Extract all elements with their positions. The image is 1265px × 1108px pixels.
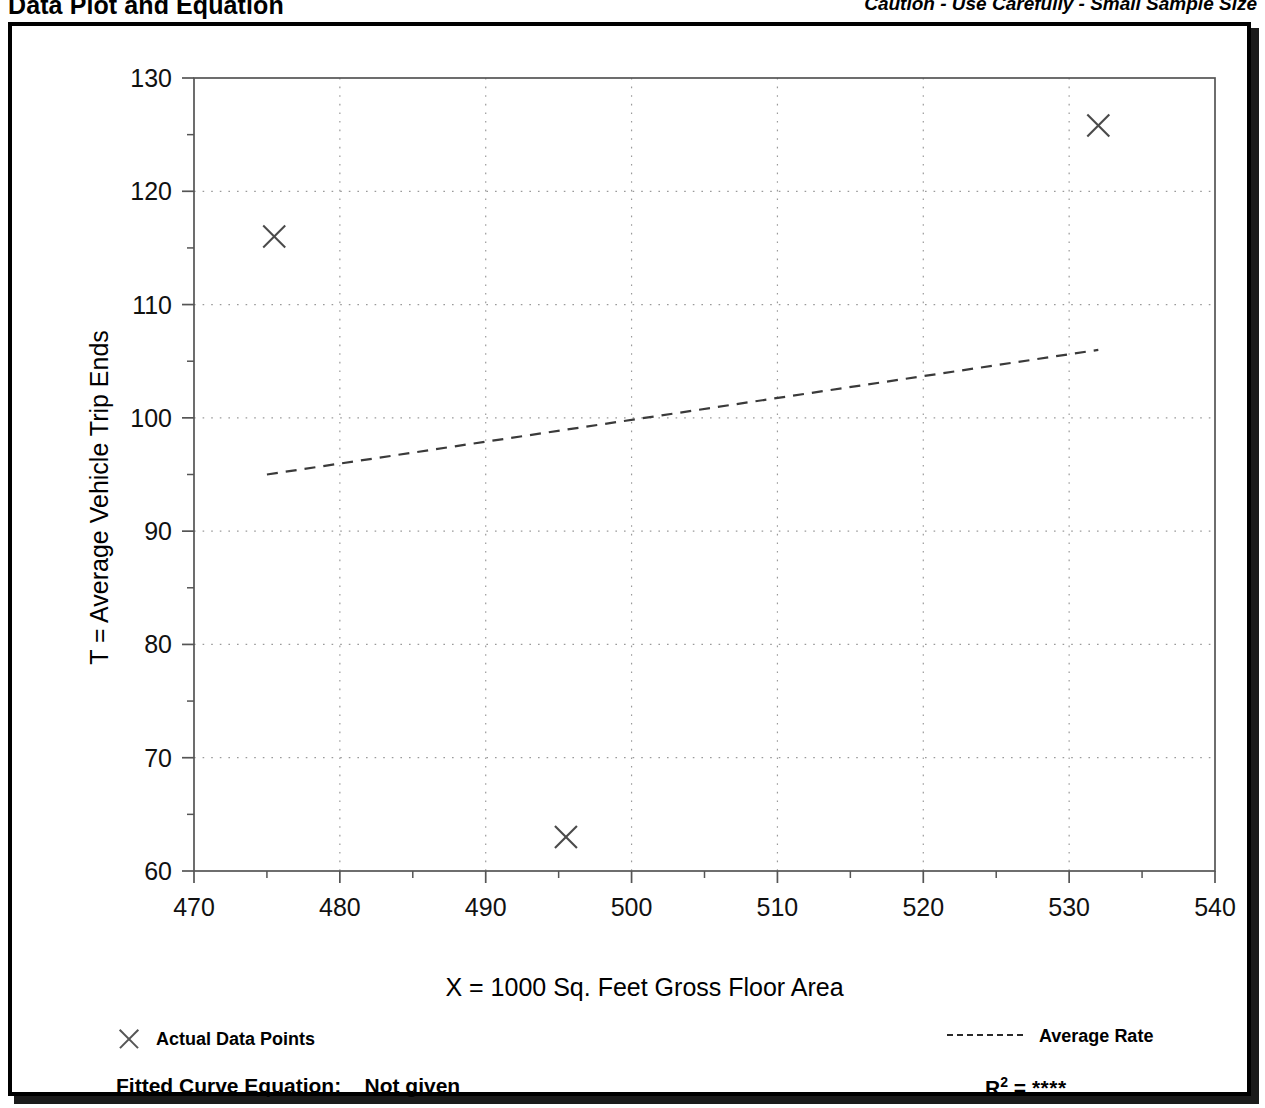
y-axis-tick-label: 110 (132, 291, 172, 319)
fitted-curve-equation-value: Not given (365, 1074, 461, 1097)
r-squared-value: **** (1032, 1076, 1067, 1099)
data-point-marker (263, 226, 285, 248)
x-axis-title: X = 1000 Sq. Feet Gross Floor Area (12, 973, 1265, 1002)
x-marker-icon (116, 1026, 142, 1052)
dashed-line-icon (947, 1034, 1023, 1039)
legend-label-actual-data-points: Actual Data Points (156, 1029, 315, 1050)
trend-line-average-rate (267, 350, 1098, 475)
y-axis-tick-label: 100 (130, 404, 172, 432)
x-axis-tick-label: 500 (611, 893, 653, 921)
y-axis-tick-label: 70 (144, 744, 172, 772)
r-squared-equals: = (1014, 1076, 1026, 1099)
y-axis-tick-label: 130 (130, 64, 172, 92)
fitted-curve-equation-label: Fitted Curve Equation: (116, 1074, 341, 1097)
y-axis-tick-label: 60 (144, 857, 172, 885)
x-axis-tick-label: 530 (1048, 893, 1090, 921)
y-axis-tick-label: 80 (144, 630, 172, 658)
fitted-curve-equation: Fitted Curve Equation: Not given (116, 1074, 460, 1098)
data-point-marker (1087, 115, 1109, 137)
chart-panel: 6070809010011012013047048049050051052053… (8, 22, 1251, 1096)
axis-frame (194, 78, 1215, 871)
x-axis-tick-label: 490 (465, 893, 507, 921)
r-squared-exponent: 2 (1000, 1074, 1008, 1090)
x-axis-tick-label: 510 (757, 893, 799, 921)
legend-average-rate: Average Rate (947, 1026, 1153, 1047)
x-axis-tick-label: 540 (1194, 893, 1236, 921)
legend-label-average-rate: Average Rate (1039, 1026, 1153, 1047)
x-axis-tick-label: 480 (319, 893, 361, 921)
plot-area: 6070809010011012013047048049050051052053… (12, 26, 1255, 1100)
y-axis-tick-label: 90 (144, 517, 172, 545)
scatter-chart-svg: 6070809010011012013047048049050051052053… (4, 4, 1265, 1108)
r-squared-row: R2 = **** (985, 1074, 1067, 1100)
r-squared-symbol: R (985, 1076, 1000, 1099)
data-point-marker (555, 826, 577, 848)
x-axis-tick-label: 520 (902, 893, 944, 921)
x-axis-tick-label: 470 (173, 893, 215, 921)
y-axis-tick-label: 120 (130, 177, 172, 205)
legend-actual-data-points: Actual Data Points (116, 1026, 315, 1052)
y-axis-title: T = Average Vehicle Trip Ends (85, 168, 114, 828)
